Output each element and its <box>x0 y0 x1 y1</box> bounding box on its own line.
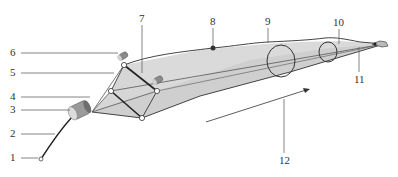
frame-node-right <box>154 88 159 93</box>
callout-6: 6 <box>10 47 16 58</box>
tow-wire <box>41 117 72 159</box>
headline-float <box>211 46 216 51</box>
callout-12: 12 <box>279 155 290 166</box>
tow-end <box>39 157 43 161</box>
callout-9: 9 <box>265 16 271 27</box>
callout-3: 3 <box>10 104 16 115</box>
towing-gear <box>39 99 93 161</box>
callout-7: 7 <box>139 13 145 24</box>
frame-node-bottom <box>139 115 144 120</box>
callout-8: 8 <box>210 16 216 27</box>
float-upper <box>116 51 129 62</box>
net-body <box>92 38 384 118</box>
callout-10: 10 <box>333 17 344 28</box>
frame-node-top <box>121 62 126 67</box>
direction-arrow <box>206 88 310 122</box>
callout-11: 11 <box>354 74 365 85</box>
callout-4: 4 <box>10 91 16 102</box>
callout-1: 1 <box>10 152 16 163</box>
frame-node-left <box>108 88 113 93</box>
callout-2: 2 <box>10 128 16 139</box>
callout-5: 5 <box>10 67 16 78</box>
